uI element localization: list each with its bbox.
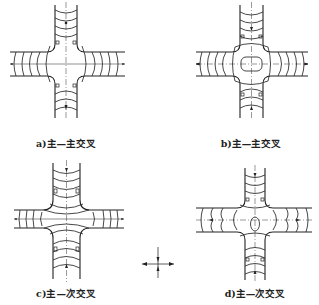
caption-d: d)主—次交叉 [225,286,286,300]
intersection-a [10,2,125,120]
intersection-b [196,2,308,120]
caption-b: b)主—主交叉 [221,136,282,150]
drainage-direction-arrows-icon [142,247,174,278]
intersection-d [196,165,312,282]
caption-c: c)主—次交叉 [36,286,96,300]
caption-a: a)主—主交叉 [36,136,96,150]
intersection-c [14,160,124,282]
